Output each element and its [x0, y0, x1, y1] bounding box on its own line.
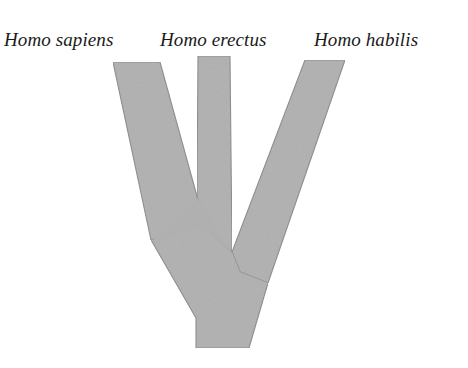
taxon-label-homo-habilis: Homo habilis — [314, 30, 418, 49]
branch-homo-habilis — [232, 60, 345, 283]
figure-canvas: Homo sapiens Homo erectus Homo habilis — [0, 0, 468, 368]
taxon-label-homo-erectus: Homo erectus — [160, 30, 267, 49]
taxon-label-homo-sapiens: Homo sapiens — [4, 30, 113, 49]
evolutionary-tree-graphic — [0, 0, 468, 368]
